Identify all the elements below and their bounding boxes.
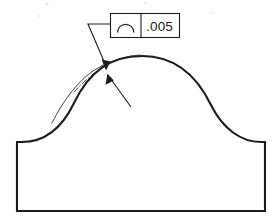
tolerance-zone-upper-leader [88,24,110,66]
part-outline [17,56,265,211]
feature-control-frame[interactable]: .005 [111,14,180,38]
scan-speck-icon [212,12,214,14]
scan-speck-icon [38,15,40,17]
scan-speck-icon [144,2,147,5]
drawing-svg: .005 [0,0,278,221]
tolerance-value-text: .005 [146,19,173,34]
scan-speck-icon [45,2,48,5]
engineering-drawing-canvas: .005 [0,0,278,221]
